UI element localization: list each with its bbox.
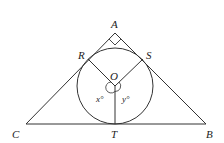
label-s: S: [146, 49, 152, 61]
label-x: x°: [95, 94, 104, 104]
label-r: R: [77, 49, 85, 61]
label-c: C: [12, 128, 20, 140]
label-y: y°: [121, 94, 130, 104]
label-t: T: [111, 128, 118, 140]
label-b: B: [206, 128, 213, 140]
geometry-diagram: A R S O x° y° C T B: [0, 0, 224, 143]
right-angle-marker: [109, 39, 121, 45]
label-o: O: [110, 70, 118, 82]
angle-arc-x: [106, 82, 115, 93]
label-a: A: [110, 18, 118, 30]
